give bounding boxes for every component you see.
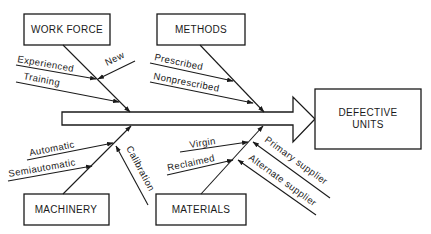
category-machinery: MACHINERY Automatic Semiautomatic Calibr… (7, 126, 157, 225)
category-materials: MATERIALS Virgin Reclaimed Primary suppl… (156, 126, 330, 225)
calibration-label: Calibration (124, 144, 157, 193)
nonprescribed-label: Nonprescribed (153, 70, 221, 94)
new-branch (98, 61, 135, 79)
alternate-supplier-label: Alternate supplier (247, 152, 319, 209)
machinery-label: MACHINERY (35, 204, 98, 215)
effect-label-line1: DEFECTIVE (339, 107, 398, 118)
semiautomatic-label: Semiautomatic (7, 156, 76, 179)
training-label: Training (23, 70, 62, 88)
methods-label: METHODS (175, 24, 227, 35)
new-label: New (103, 49, 126, 68)
effect-box: DEFECTIVE UNITS (315, 89, 421, 149)
work-force-label: WORK FORCE (31, 24, 103, 35)
fishbone-diagram: DEFECTIVE UNITS WORK FORCE Experienced N… (0, 0, 431, 234)
category-work-force: WORK FORCE Experienced New Training (16, 14, 135, 112)
materials-label: MATERIALS (172, 204, 231, 215)
effect-label-line2: UNITS (352, 119, 384, 130)
category-methods: METHODS Prescribed Nonprescribed (150, 14, 264, 112)
spine-arrow (62, 97, 315, 142)
methods-rib (200, 45, 264, 112)
